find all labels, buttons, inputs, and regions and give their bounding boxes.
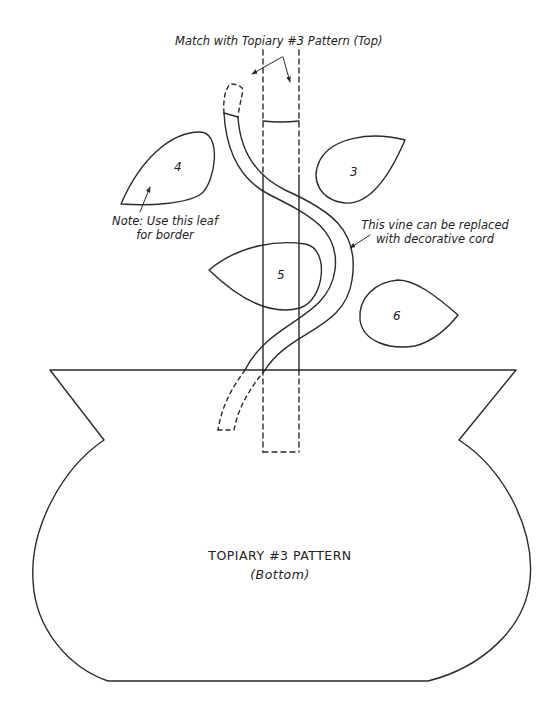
leaf-6-number: 6 <box>393 309 401 323</box>
leaf-3-shape <box>316 136 405 203</box>
vine-top-dashed <box>224 84 243 117</box>
stem-top-edge <box>263 121 299 122</box>
leaf-4-shape <box>121 132 214 205</box>
leaf-note-arrow <box>140 187 150 212</box>
leaf-3-number: 3 <box>350 165 358 179</box>
leaf-5-shape <box>209 243 321 310</box>
pattern-subtitle: (Bottom) <box>130 567 430 582</box>
pot-outline <box>33 370 531 681</box>
leaf-note-label: Note: Use this leaf for border <box>100 214 230 242</box>
leaf-note-line2: for border <box>100 228 230 242</box>
leaf-5-number: 5 <box>277 268 285 282</box>
vine-top-edge <box>224 113 238 117</box>
match-note-label: Match with Topiary #3 Pattern (Top) <box>175 34 382 48</box>
pattern-drawing <box>0 0 557 712</box>
leaf-note-line1: Note: Use this leaf <box>100 214 230 228</box>
vine-tail-dashed-left <box>218 370 245 430</box>
vine-note-line2: with decorative cord <box>355 232 515 246</box>
pattern-title: TOPIARY #3 PATTERN <box>130 548 430 563</box>
vine-note-label: This vine can be replaced with decorativ… <box>355 218 515 246</box>
match-arrow-right <box>283 57 290 82</box>
vine-left-edge <box>224 113 336 370</box>
leaf-6-shape <box>360 280 458 347</box>
match-arrow-left <box>252 57 282 74</box>
vine-note-line1: This vine can be replaced <box>355 218 515 232</box>
leaf-4-number: 4 <box>174 160 182 174</box>
